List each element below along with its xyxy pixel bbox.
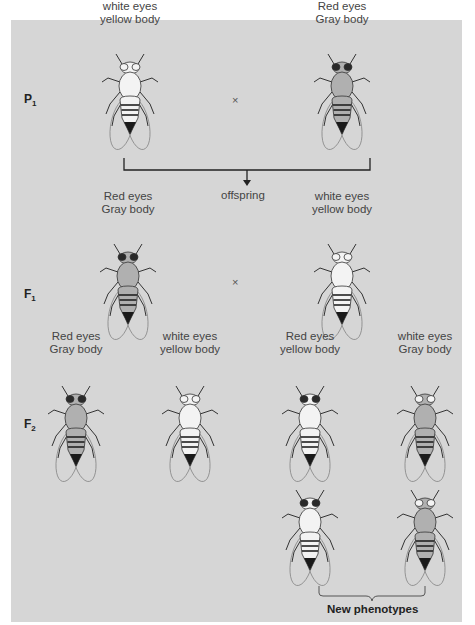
phenotype-label-f2-1: Red eyesGray body: [26, 330, 126, 356]
eye-phenotype: Red eyes: [26, 330, 126, 343]
fly-new-1-icon: [278, 488, 342, 588]
offspring-label: offspring: [221, 189, 265, 201]
new-phenotypes-label: New phenotypes: [327, 603, 418, 615]
phenotype-label-p1-left: white eyesyellow body: [80, 0, 180, 26]
body-phenotype: yellow body: [292, 203, 392, 216]
body-phenotype: yellow body: [260, 343, 360, 356]
body-phenotype: Gray body: [26, 343, 126, 356]
body-phenotype: Gray body: [375, 343, 475, 356]
phenotype-label-f2-4: white eyesGray body: [375, 330, 475, 356]
body-phenotype: Gray body: [78, 203, 178, 216]
fly-f1-left-icon: [96, 242, 160, 342]
fly-new-2-icon: [393, 488, 457, 588]
body-phenotype: yellow body: [80, 13, 180, 26]
phenotype-label-f1-right: white eyesyellow body: [292, 190, 392, 216]
eye-phenotype: Red eyes: [78, 190, 178, 203]
phenotype-label-f1-left: Red eyesGray body: [78, 190, 178, 216]
body-phenotype: Gray body: [292, 13, 392, 26]
fly-f2-4-icon: [393, 384, 457, 484]
eye-phenotype: Red eyes: [260, 330, 360, 343]
eye-phenotype: white eyes: [292, 190, 392, 203]
fly-p1-left-icon: [98, 52, 162, 152]
phenotype-label-f2-2: white eyesyellow body: [140, 330, 240, 356]
fly-f2-3-icon: [278, 384, 342, 484]
eye-phenotype: white eyes: [140, 330, 240, 343]
eye-phenotype: white eyes: [375, 330, 475, 343]
body-phenotype: yellow body: [140, 343, 240, 356]
eye-phenotype: white eyes: [80, 0, 180, 13]
phenotype-label-p1-right: Red eyesGray body: [292, 0, 392, 26]
eye-phenotype: Red eyes: [292, 0, 392, 13]
phenotype-label-f2-3: Red eyesyellow body: [260, 330, 360, 356]
fly-f1-right-icon: [310, 242, 374, 342]
fly-f2-1-icon: [44, 384, 108, 484]
fly-p1-right-icon: [310, 52, 374, 152]
fly-f2-2-icon: [158, 384, 222, 484]
